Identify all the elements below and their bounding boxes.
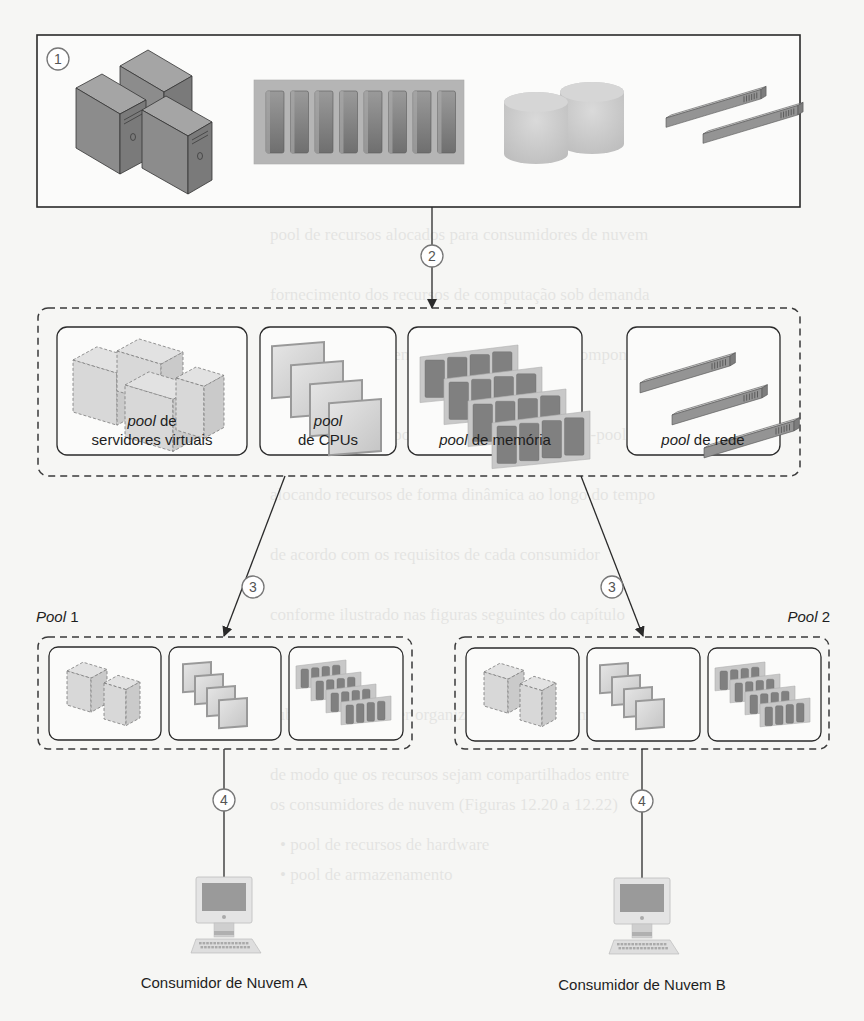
computer-icon	[191, 877, 261, 953]
step-4-connector-a: 4	[213, 749, 235, 878]
storage-icon	[504, 82, 624, 164]
svg-text:• pool de recursos de hardware: • pool de recursos de hardware	[280, 835, 489, 854]
svg-text:Pool 2: Pool 2	[787, 608, 830, 625]
svg-text:os consumidores de nuvem (Figu: os consumidores de nuvem (Figuras 12.20 …	[270, 795, 618, 814]
sub-pool-1: Pool 1	[36, 608, 412, 749]
svg-text:• pool de armazenamento: • pool de armazenamento	[280, 865, 453, 884]
physical-resources-box: 1	[37, 35, 803, 207]
svg-text:pool de rede: pool de rede	[660, 431, 744, 448]
svg-text:de CPUs: de CPUs	[298, 431, 358, 448]
cpu-rack-icon	[254, 80, 464, 164]
svg-text:2: 2	[428, 248, 436, 264]
svg-text:servidores virtuais: servidores virtuais	[92, 431, 213, 448]
svg-text:3: 3	[608, 579, 616, 595]
consumer-b: Consumidor de Nuvem B	[558, 878, 726, 993]
svg-text:Pool 1: Pool 1	[36, 608, 79, 625]
svg-text:4: 4	[638, 793, 646, 809]
svg-text:conforme ilustrado nas figuras: conforme ilustrado nas figuras seguintes…	[270, 605, 625, 624]
svg-text:Consumidor de Nuvem A: Consumidor de Nuvem A	[141, 974, 308, 991]
step-1-badge: 1	[47, 48, 69, 70]
resource-pool-diagram: Arquitetura e recursos de recursos Compa…	[0, 0, 864, 1021]
svg-text:pool de memória: pool de memória	[438, 431, 551, 448]
sub-pool-2: Pool 2	[455, 608, 830, 749]
svg-text:pool de: pool de	[126, 412, 176, 429]
svg-text:alocando recursos de forma din: alocando recursos de forma dinâmica ao l…	[270, 485, 655, 504]
pool-cpus: pool de CPUs	[260, 327, 396, 455]
svg-text:4: 4	[220, 792, 228, 808]
pool-memory: pool de memória	[408, 327, 590, 469]
svg-text:pool de recursos alocados para: pool de recursos alocados para consumido…	[270, 225, 648, 244]
svg-text:3: 3	[249, 579, 257, 595]
pool-network: pool de rede	[627, 327, 799, 458]
consumer-a: Consumidor de Nuvem A	[141, 877, 308, 991]
svg-text:de modo que os recursos sejam: de modo que os recursos sejam compartilh…	[270, 765, 629, 784]
step-4-connector-b: 4	[631, 749, 653, 878]
computer-icon	[609, 878, 679, 954]
pool-virtual-servers: pool de servidores virtuais	[57, 327, 247, 455]
svg-text:1: 1	[54, 51, 62, 67]
resource-pools-group: pool de servidores virtuais pool de CPUs…	[38, 308, 800, 476]
svg-text:fornecimento dos recursos de c: fornecimento dos recursos de computação …	[270, 285, 650, 304]
svg-text:pool: pool	[313, 412, 343, 429]
svg-text:Consumidor de Nuvem B: Consumidor de Nuvem B	[558, 976, 726, 993]
svg-text:de acordo com os requisitos de: de acordo com os requisitos de cada cons…	[270, 545, 600, 564]
